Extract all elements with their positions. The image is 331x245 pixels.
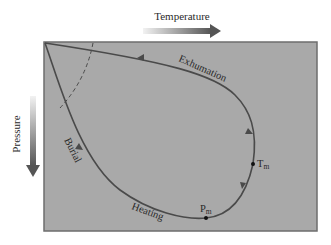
tm-point-marker [251, 162, 255, 166]
pressure-axis-arrow-icon [26, 96, 40, 177]
temperature-axis-label: Temperature [154, 10, 210, 22]
pm-point-marker [204, 216, 208, 220]
pressure-axis-label: Pressure [10, 115, 22, 152]
temperature-axis-arrow-icon [143, 24, 221, 38]
pt-path-diagram: Temperature Pressure Burial Heating Exhu… [0, 0, 331, 245]
